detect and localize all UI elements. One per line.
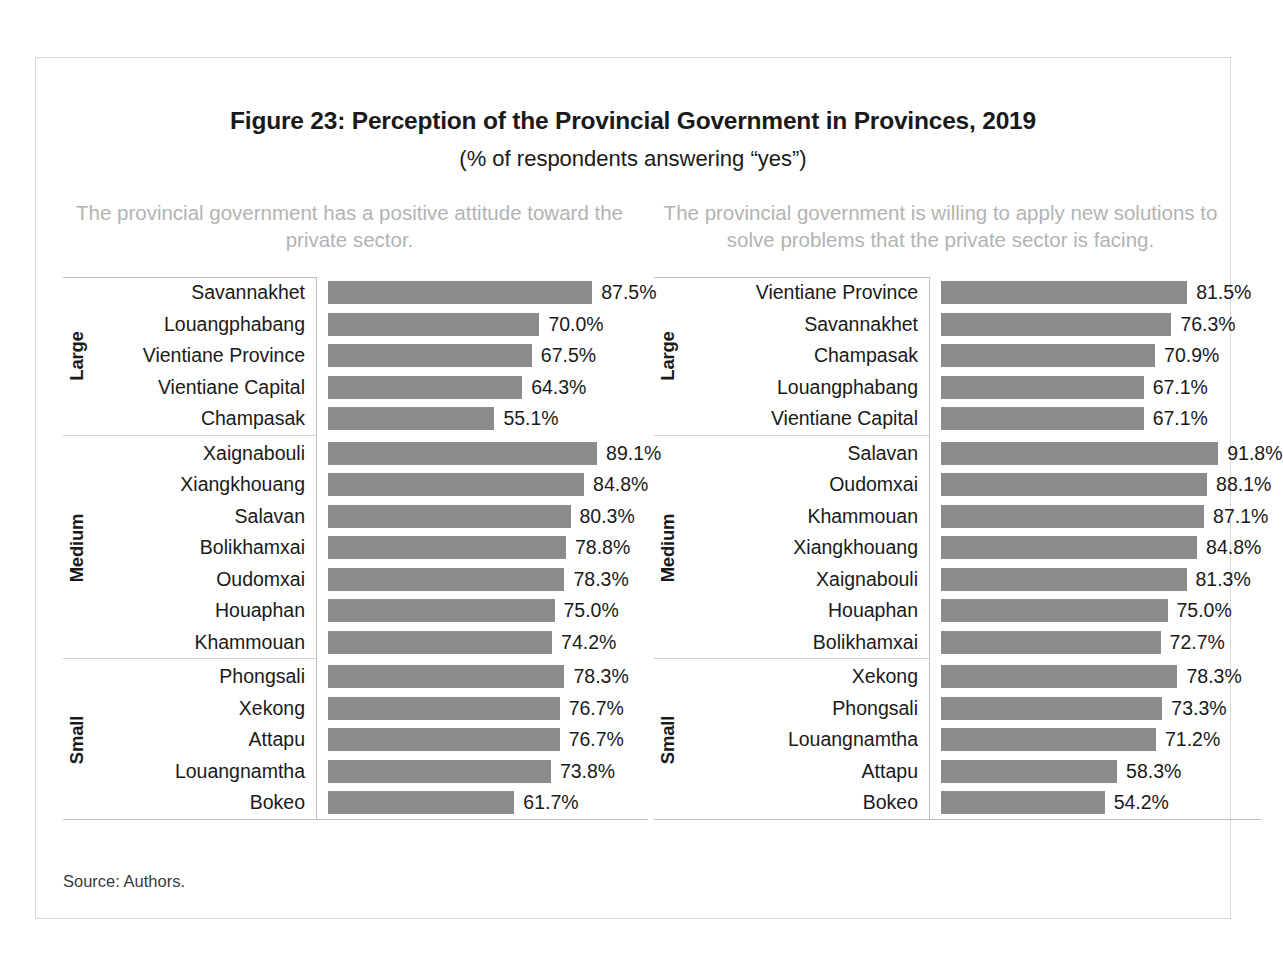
bar-row: Xekong78.3% [654,661,1227,693]
bar-row: Vientiane Province81.5% [654,277,1227,309]
bar [941,281,1187,304]
bar-category-label: Xaignabouli [91,438,316,470]
bar-row: Houaphan75.0% [63,595,636,627]
chart-panels: The provincial government has a positive… [36,58,1230,918]
bar-category-label: Xaignabouli [682,564,929,596]
bar [941,665,1177,688]
bar-value-label: 70.9% [1164,344,1219,367]
bar-category-label: Bolikhamxai [682,627,929,659]
bar [941,728,1156,751]
bar-value-label: 78.3% [573,665,628,688]
bar-and-value: 67.5% [328,340,596,372]
bar-row: Vientiane Capital64.3% [63,372,636,404]
bar-row: Khammouan87.1% [654,501,1227,533]
bar-value-label: 84.8% [1206,536,1261,559]
bar-and-value: 71.2% [941,724,1220,756]
bar-category-label: Attapu [91,724,316,756]
bar-value-label: 78.3% [1186,665,1241,688]
bar [941,376,1144,399]
bar-category-label: Savannakhet [91,277,316,309]
bar-category-label: Houaphan [91,595,316,627]
bar-row: Louangphabang70.0% [63,309,636,341]
bar-and-value: 74.2% [328,627,616,659]
chart-bottom-rule [654,819,1261,820]
bar [328,281,592,304]
bar-category-label: Vientiane Province [682,277,929,309]
bar [941,631,1161,654]
bar [328,536,566,559]
bar [328,760,551,783]
bar-category-label: Vientiane Province [91,340,316,372]
bar-and-value: 73.8% [328,756,615,788]
bar [941,344,1155,367]
bar-value-label: 76.7% [569,728,624,751]
bar-group-small: SmallXekong78.3%Phongsali73.3%Louangnamt… [654,661,1227,819]
bar-and-value: 78.3% [328,661,629,693]
bar-and-value: 91.8% [941,438,1283,470]
bar-and-value: 72.7% [941,627,1225,659]
bar [328,665,564,688]
chart-bottom-rule [63,819,648,820]
group-separator-rule [654,435,929,436]
bar-value-label: 76.3% [1180,313,1235,336]
bar-row: Salavan80.3% [63,501,636,533]
bar-row: Phongsali78.3% [63,661,636,693]
bar-category-label: Salavan [91,501,316,533]
bar-value-label: 72.7% [1170,631,1225,654]
bar-row: Bokeo61.7% [63,787,636,819]
bar-value-label: 73.8% [560,760,615,783]
bar-group-medium: MediumXaignabouli89.1%Xiangkhouang84.8%S… [63,438,636,659]
bar-value-label: 74.2% [561,631,616,654]
bar-category-label: Khammouan [682,501,929,533]
panel-right-heading: The provincial government is willing to … [654,193,1227,277]
bar-category-label: Xiangkhouang [682,532,929,564]
bar-and-value: 75.0% [328,595,619,627]
bar-category-label: Salavan [682,438,929,470]
bar-value-label: 78.3% [573,568,628,591]
bar [941,407,1144,430]
bar-value-label: 78.8% [575,536,630,559]
bar [941,505,1204,528]
bar-category-label: Louangnamtha [682,724,929,756]
bar [941,473,1207,496]
bar-row: Bolikhamxai72.7% [654,627,1227,659]
bar-row: Louangnamtha71.2% [654,724,1227,756]
bar-and-value: 78.8% [328,532,630,564]
bar [941,791,1105,814]
bar-and-value: 78.3% [941,661,1242,693]
bar [328,728,560,751]
bar [328,407,494,430]
bar-value-label: 71.2% [1165,728,1220,751]
bar-category-label: Vientiane Capital [91,372,316,404]
bar-group-small: SmallPhongsali78.3%Xekong76.7%Attapu76.7… [63,661,636,819]
group-separator-rule [63,435,316,436]
bar-and-value: 73.3% [941,693,1227,725]
bar-and-value: 84.8% [941,532,1261,564]
bar-category-label: Vientiane Capital [682,403,929,435]
bar-category-label: Phongsali [682,693,929,725]
bar-category-label: Louangphabang [91,309,316,341]
bar-row: Phongsali73.3% [654,693,1227,725]
bar-and-value: 70.9% [941,340,1219,372]
bar-value-label: 61.7% [523,791,578,814]
bar-category-label: Khammouan [91,627,316,659]
bar [941,760,1117,783]
bar-and-value: 87.1% [941,501,1268,533]
bar [328,568,564,591]
bar-category-label: Phongsali [91,661,316,693]
bar-row: Bokeo54.2% [654,787,1227,819]
bar-category-label: Oudomxai [91,564,316,596]
bar-value-label: 84.8% [593,473,648,496]
bar-and-value: 87.5% [328,277,657,309]
bar-row: Champasak70.9% [654,340,1227,372]
bar-value-label: 81.5% [1196,281,1251,304]
bar-row: Bolikhamxai78.8% [63,532,636,564]
bar [941,599,1168,622]
bar-row: Xaignabouli81.3% [654,564,1227,596]
bar-row: Vientiane Province67.5% [63,340,636,372]
bar-and-value: 67.1% [941,403,1208,435]
bar-row: Savannakhet87.5% [63,277,636,309]
bar-and-value: 75.0% [941,595,1232,627]
bar-and-value: 58.3% [941,756,1181,788]
bar-category-label: Xiangkhouang [91,469,316,501]
